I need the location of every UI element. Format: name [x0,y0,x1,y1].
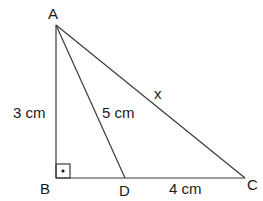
measure-dc: 4 cm [169,180,202,197]
measure-ad: 5 cm [102,104,135,121]
measure-ab: 3 cm [13,104,46,121]
point-label-c: C [247,176,258,193]
point-label-d: D [119,182,130,199]
segment-ac [56,25,245,178]
segment-ad [56,25,125,178]
point-label-b: B [40,180,50,197]
point-label-a: A [48,5,58,22]
right-angle-dot [61,169,64,172]
triangle-diagram: A B D C 3 cm 5 cm x 4 cm [0,0,263,201]
measure-ac: x [154,85,162,102]
